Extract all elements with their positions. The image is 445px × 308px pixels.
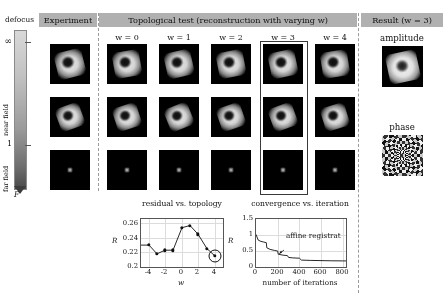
scale-label-focal: F: [14, 190, 19, 199]
tile-w0-farfield: [107, 150, 147, 190]
chart1-ytick-0-26: 0.26: [118, 219, 138, 227]
chart2-plot-area: [255, 218, 347, 268]
chart2-ytick-1-5: 1.5: [235, 214, 253, 222]
chart1-yaxis-label: R: [112, 236, 117, 245]
chart2-xtick-0: 0: [249, 268, 261, 276]
tile-w4-nearfield-1: [315, 44, 355, 84]
scale-label-far-field: far field: [2, 150, 10, 192]
chart1-title: residual vs. topology: [128, 199, 236, 208]
defocus-header-label: defocus: [2, 13, 37, 27]
chart1-xtick-m4: -4: [141, 268, 155, 276]
chart2-ytick-1: 1: [235, 230, 253, 238]
defocus-gradient-bar: [14, 30, 27, 190]
chart2-xtick-400: 400: [288, 268, 310, 276]
tile-w2-nearfield-2: [211, 97, 251, 137]
scale-tick-infinity: [25, 42, 31, 43]
chart1-highlight-circle: [209, 250, 222, 263]
figure-panel: defocus Experiment Topological test (rec…: [0, 0, 445, 308]
separator-topological-result: [358, 13, 359, 293]
chart1-xaxis-label: w: [140, 278, 222, 287]
separator-experiment-topological: [98, 13, 99, 191]
tile-experiment-nearfield-1: [50, 44, 90, 84]
chart2-ytick-0-5: 0.5: [235, 246, 253, 254]
tile-experiment-farfield: [50, 150, 90, 190]
scale-label-one: 1: [0, 139, 12, 148]
tile-w0-nearfield-1: [107, 44, 147, 84]
header-experiment: Experiment: [39, 13, 97, 27]
tile-w4-nearfield-2: [315, 97, 355, 137]
tile-w2-nearfield-1: [211, 44, 251, 84]
scale-label-near-field: near field: [2, 58, 10, 136]
chart1-xtick-2: 2: [190, 268, 204, 276]
chart1-xtick-m2: -2: [157, 268, 171, 276]
tile-w1-nearfield-1: [159, 44, 199, 84]
column-label-w0: w = 0: [103, 33, 151, 42]
result-label-amplitude: amplitude: [365, 33, 439, 43]
chart1-ytick-0-2: 0.2: [118, 262, 138, 270]
scale-tick-one: [25, 145, 31, 146]
chart1-xtick-0: 0: [174, 268, 188, 276]
tile-result-phase: [382, 135, 423, 176]
tile-w1-nearfield-2: [159, 97, 199, 137]
chart2-title: convergence vs. iteration: [239, 199, 361, 208]
tile-experiment-nearfield-2: [50, 97, 90, 137]
tile-w1-farfield: [159, 150, 199, 190]
column-label-w4: w = 4: [311, 33, 359, 42]
header-topological-test: Topological test (reconstruction with va…: [99, 13, 357, 27]
result-label-phase: phase: [365, 122, 439, 132]
chart2-series-line: [256, 219, 346, 267]
chart1-ytick-0-22: 0.22: [118, 248, 138, 256]
chart1-plot-area: [140, 218, 224, 268]
chart1-ytick-0-24: 0.24: [118, 234, 138, 242]
tile-w4-farfield: [315, 150, 355, 190]
chart2-yaxis-label: R: [228, 236, 233, 245]
chart1-xtick-4: 4: [207, 268, 221, 276]
tile-w0-nearfield-2: [107, 97, 147, 137]
tile-result-amplitude: [382, 46, 423, 87]
chart2-xaxis-label: number of iterations: [255, 278, 345, 287]
column-label-w1: w = 1: [155, 33, 203, 42]
tile-w2-farfield: [211, 150, 251, 190]
chart2-annotation-affine: affine registrat: [286, 231, 341, 240]
chart2-xtick-800: 800: [331, 268, 353, 276]
chart2-xtick-600: 600: [309, 268, 331, 276]
header-result: Result (w = 3): [361, 13, 443, 27]
highlight-frame-w3: [260, 41, 308, 195]
chart2-xtick-200: 200: [266, 268, 288, 276]
column-label-w2: w = 2: [207, 33, 255, 42]
scale-label-infinity: ∞: [0, 36, 12, 46]
